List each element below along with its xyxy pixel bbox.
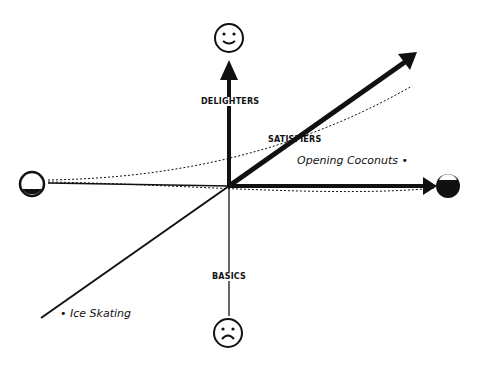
- happy-face-icon: [215, 24, 243, 52]
- satisfiers-label: SATISFIERS: [268, 135, 321, 144]
- right-arrowhead: [423, 177, 437, 195]
- filled-circle-icon: [436, 174, 460, 198]
- satisfiers-line-lower: [41, 186, 229, 318]
- horizontal-axis-left: [48, 183, 229, 186]
- item-opening-coconuts: Opening Coconuts •: [297, 154, 408, 167]
- delighters-label: DELIGHTERS: [200, 97, 260, 106]
- satisfiers-line-upper: [229, 62, 405, 186]
- up-arrowhead: [220, 60, 238, 80]
- empty-circle-icon: [20, 172, 44, 196]
- sad-face-icon: [214, 319, 242, 347]
- item-ice-skating: • Ice Skating: [60, 307, 131, 320]
- basics-label: BASICS: [211, 272, 247, 281]
